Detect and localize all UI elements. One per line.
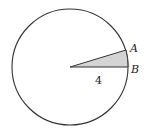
label-radius: 4	[95, 74, 102, 87]
label-point-a: A	[129, 42, 138, 55]
label-point-b: B	[130, 63, 139, 76]
circle-diagram: A B 4	[0, 0, 146, 133]
